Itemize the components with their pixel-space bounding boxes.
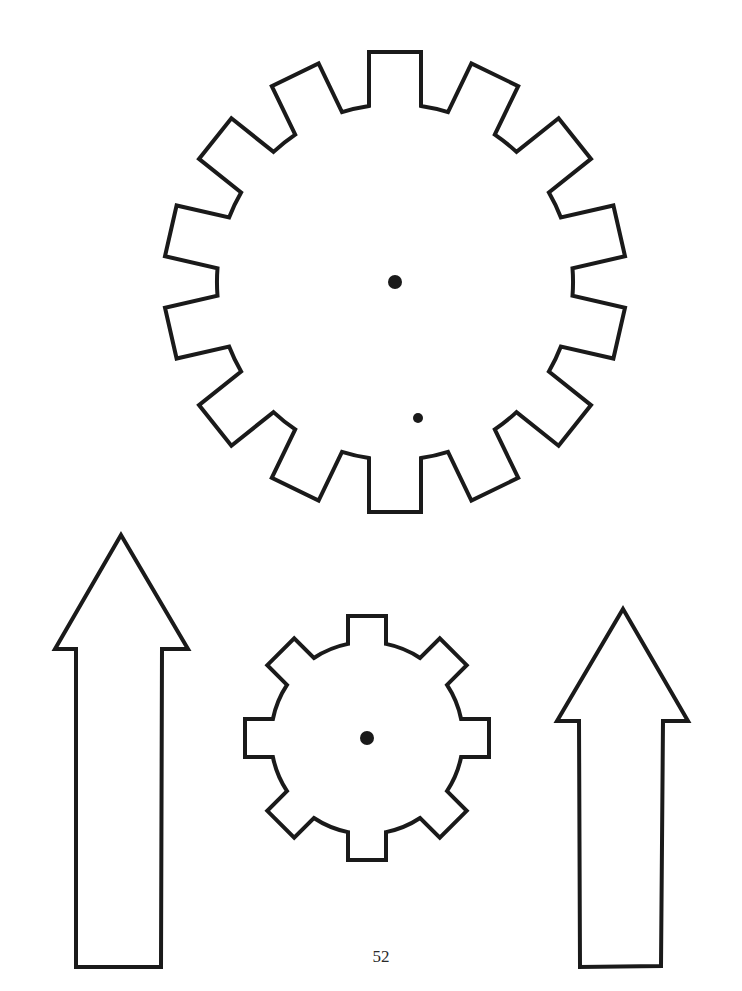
large-gear-center-hole [388, 275, 402, 289]
worksheet-page: 52 [0, 0, 742, 991]
large-gear-cutout [165, 52, 625, 512]
right-arrow-up-cutout [557, 609, 688, 967]
large-gear-crank-hole [413, 413, 423, 423]
small-gear-center-hole [360, 731, 374, 745]
left-arrow-up-cutout [55, 535, 188, 967]
page-number: 52 [361, 947, 401, 967]
small-gear-cutout [245, 616, 489, 860]
